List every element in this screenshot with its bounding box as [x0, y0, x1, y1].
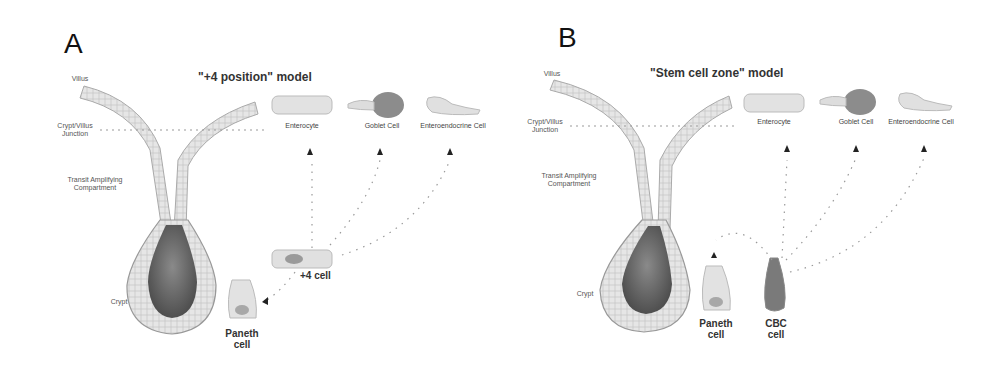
panel-b-stem-cell-zone-model: B "Stem cell zone" model Villus Crypt/Vi…: [504, 0, 1008, 377]
model-title: "Stem cell zone" model: [650, 66, 783, 80]
model-title: "+4 position" model: [198, 70, 312, 84]
cell-label-enteroendocrine: Enteroendocrine Cell: [886, 118, 956, 126]
stem-cell-label: +4 cell: [300, 270, 331, 281]
cell-label-goblet: Goblet Cell: [836, 118, 876, 126]
zone-label-villus: Villus: [532, 70, 572, 78]
villus-left-arm: [80, 86, 172, 230]
zone-label-transit: Transit Amplifying Compartment: [524, 172, 614, 188]
cell-label-goblet: Goblet Cell: [362, 122, 402, 130]
villus-right-arm: [174, 102, 258, 230]
villus-left-arm: [550, 80, 654, 230]
panel-letter: B: [558, 22, 577, 54]
cell-label-enterocyte: Enterocyte: [744, 118, 804, 126]
enterocyte-cell-icon: [272, 96, 332, 114]
zone-label-junction: Crypt/Villus Junction: [50, 122, 100, 138]
panel-letter: A: [64, 28, 83, 60]
paneth-cell-label: Paneth cell: [222, 328, 262, 350]
zone-label-junction: Crypt/Villus Junction: [520, 118, 570, 134]
panel-a-plus4-model: A "+4 position" model Villus Crypt/Villu…: [0, 0, 504, 377]
enteroendocrine-cell-icon: [427, 97, 480, 115]
stem-cell-label: CBC cell: [756, 318, 796, 340]
cbc-cell-icon: [765, 258, 785, 311]
zone-label-crypt: Crypt: [570, 290, 600, 298]
enterocyte-cell-icon: [744, 94, 804, 112]
goblet-cell-icon: [372, 92, 404, 118]
cell-label-enteroendocrine: Enteroendocrine Cell: [418, 122, 488, 130]
cell-label-enterocyte: Enterocyte: [272, 122, 332, 130]
goblet-cell-icon: [844, 89, 876, 115]
paneth-cell-label: Paneth cell: [696, 318, 736, 340]
enteroendocrine-cell-icon: [899, 93, 952, 111]
zone-label-transit: Transit Amplifying Compartment: [50, 176, 140, 192]
zone-label-crypt: Crypt: [104, 298, 134, 306]
villus-right-arm: [658, 96, 732, 230]
zone-label-villus: Villus: [60, 75, 100, 83]
